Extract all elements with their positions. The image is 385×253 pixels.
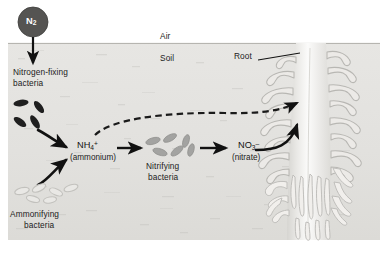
n2-label: N2: [26, 16, 36, 26]
ammonium-formula: NH4+: [77, 140, 98, 151]
air-region: [0, 0, 385, 43]
nitrogen-cycle-figure: N2 Air Soil Root Nitrogen-fixing bacteri…: [0, 0, 385, 253]
air-label: Air: [160, 31, 170, 41]
ammonium-caption: (ammonium): [70, 153, 116, 162]
ammonifying-bacteria-label-line1: Ammonifying: [10, 209, 59, 219]
ammonifying-bacteria-label-line2: bacteria: [24, 220, 54, 230]
nitrogen-fixing-bacteria-label-line2: bacteria: [13, 78, 43, 88]
root-label: Root: [234, 51, 252, 61]
nitrifying-bacteria-label-line2: bacteria: [148, 172, 178, 182]
nitrifying-bacteria-label-line1: Nitrifying: [146, 161, 179, 171]
soil-label: Soil: [160, 53, 174, 63]
nitrate-caption: (nitrate): [232, 153, 260, 162]
nitrogen-fixing-bacteria-label-line1: Nitrogen-fixing: [13, 67, 68, 77]
nitrate-formula: NO3–: [238, 140, 259, 151]
